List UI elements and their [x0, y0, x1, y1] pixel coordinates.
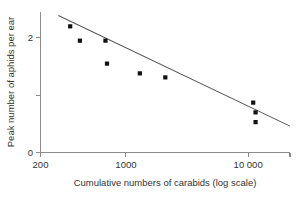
- x-tick-label: 200: [33, 159, 49, 170]
- x-tick-label: 1000: [115, 159, 136, 170]
- data-point: [138, 71, 142, 75]
- y-axis-title: Peak number of aphids per ear: [5, 17, 16, 147]
- data-point: [68, 24, 72, 28]
- data-point: [253, 110, 257, 114]
- x-tick-label: 10 000: [234, 159, 263, 170]
- data-point: [103, 39, 107, 43]
- data-point: [105, 62, 109, 66]
- chart-figure: 02 200100010 000 Cumulative numbers of c…: [0, 0, 303, 198]
- y-tick-label: 2: [28, 32, 33, 43]
- x-axis-title: Cumulative numbers of carabids (log scal…: [74, 177, 257, 188]
- data-point: [251, 101, 255, 105]
- data-point: [163, 75, 167, 79]
- data-point: [253, 120, 257, 124]
- scatter-plot: 02 200100010 000 Cumulative numbers of c…: [0, 0, 303, 198]
- data-point: [78, 39, 82, 43]
- y-tick-label: 0: [28, 147, 33, 158]
